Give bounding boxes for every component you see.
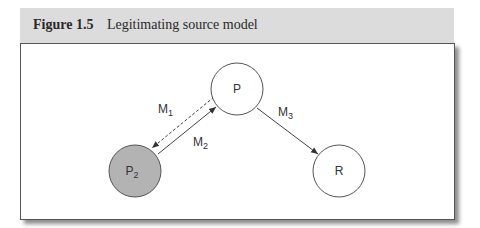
svg-text:R: R xyxy=(335,164,344,178)
edge-label-m1: M1 xyxy=(158,102,173,118)
node-p2: P2 xyxy=(109,145,161,197)
diagram-canvas: P P2 R M1 M2 M3 xyxy=(0,0,480,228)
node-p: P xyxy=(211,63,263,115)
node-r: R xyxy=(313,145,365,197)
svg-text:P: P xyxy=(233,82,241,96)
edge-label-m2: M2 xyxy=(193,135,208,151)
edge-label-m3: M3 xyxy=(278,105,293,121)
